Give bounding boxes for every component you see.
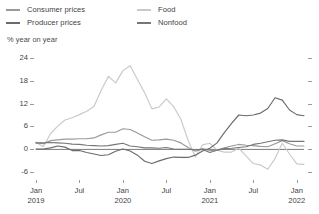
y-axis-label: -6 [2,168,28,176]
y-axis-label: 6 [2,122,28,130]
x-axis-label: Jan2021 [188,186,232,205]
x-axis-label: Jan2022 [275,186,319,205]
legend-item-food: Food [137,4,176,15]
x-axis-label: Jul [57,186,101,196]
legend-label-nonfood: Nonfood [158,18,187,27]
y-axis-tick-right [308,172,312,173]
legend-item-nonfood: Nonfood [137,17,187,28]
legend-label-consumer-prices: Consumer prices [27,5,85,14]
y-axis-label: 0 [2,145,28,153]
x-axis-tick [79,180,80,183]
y-axis-tick [30,58,34,59]
series-line-food [36,66,304,170]
x-axis-tick [123,180,124,183]
x-axis-label: Jan2019 [14,186,58,205]
x-axis-tick [297,180,298,183]
y-axis-tick [30,126,34,127]
chart-root: Consumer prices Producer prices Food Non… [0,0,319,214]
plot-svg [36,50,304,180]
x-axis-label: Jul [231,186,275,196]
y-axis-tick [30,104,34,105]
x-axis-label: Jan2020 [101,186,145,205]
y-axis-title: % year on year [7,35,57,44]
y-axis-label: 24 [2,54,28,62]
y-axis-tick [30,172,34,173]
y-axis-tick-right [308,149,312,150]
legend-label-food: Food [158,5,176,14]
y-axis-tick-right [308,58,312,59]
chart-legend: Consumer prices Producer prices Food Non… [6,4,306,30]
legend-swatch-food [137,9,151,11]
y-axis-tick-right [308,81,312,82]
legend-swatch-producer-prices [6,22,20,24]
x-axis-tick [210,180,211,183]
y-axis-tick-right [308,126,312,127]
legend-swatch-consumer-prices [6,9,20,11]
x-axis-label: Jul [144,186,188,196]
y-axis-tick [30,81,34,82]
legend-item-consumer-prices: Consumer prices [6,4,85,15]
series-line-producer-prices [36,98,304,164]
x-axis-tick [253,180,254,183]
x-axis-tick [166,180,167,183]
legend-label-producer-prices: Producer prices [27,18,81,27]
y-axis-tick-right [308,104,312,105]
y-axis-label: 18 [2,77,28,85]
plot-area [36,50,304,180]
y-axis-label: 12 [2,100,28,108]
legend-swatch-nonfood [137,22,151,24]
x-axis-tick [36,180,37,183]
legend-item-producer-prices: Producer prices [6,17,81,28]
y-axis-tick [30,149,34,150]
